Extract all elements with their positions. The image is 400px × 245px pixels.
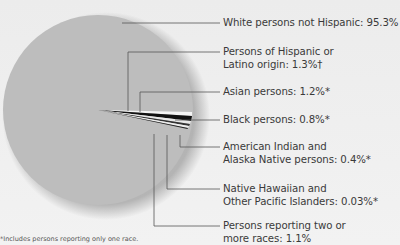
label-aian-line2: Alaska Native persons: 0.4%* xyxy=(223,153,371,166)
label-black: Black persons: 0.8%* xyxy=(223,113,330,126)
label-nhpi: Native Hawaiian andOther Pacific Islande… xyxy=(223,182,378,208)
label-asian: Asian persons: 1.2%* xyxy=(223,85,330,98)
label-hispanic-line1: Persons of Hispanic or xyxy=(223,45,334,58)
label-two-or-more: Persons reporting two ormore races: 1.1% xyxy=(223,219,346,245)
label-aian-line1: American Indian and xyxy=(223,140,371,153)
footnote: *Includes persons reporting only one rac… xyxy=(0,235,138,243)
label-white: White persons not Hispanic: 95.3% xyxy=(223,16,398,29)
label-two-line2: more races: 1.1% xyxy=(223,232,346,245)
label-hispanic: Persons of Hispanic orLatino origin: 1.3… xyxy=(223,45,334,71)
label-aian: American Indian andAlaska Native persons… xyxy=(223,140,371,166)
label-nhpi-line1: Native Hawaiian and xyxy=(223,182,378,195)
label-two-line1: Persons reporting two or xyxy=(223,219,346,232)
label-hispanic-line2: Latino origin: 1.3%† xyxy=(223,58,334,71)
pie-chart xyxy=(0,0,400,245)
label-nhpi-line2: Other Pacific Islanders: 0.03%* xyxy=(223,195,378,208)
